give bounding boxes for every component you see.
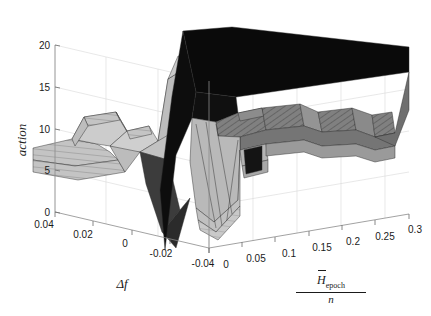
delta-f-tick: 0 — [122, 238, 128, 249]
action-tick-labels: 20 15 10 5 0 — [39, 40, 51, 218]
action-tick: 15 — [39, 82, 51, 93]
delta-f-tick: -0.04 — [192, 258, 215, 269]
delta-f-tick-labels: 0.04 0.02 0 -0.02 -0.04 — [34, 219, 215, 269]
action-axis-title: action — [14, 124, 29, 157]
delta-f-tick: -0.02 — [150, 248, 173, 259]
h-epoch-axis-title: Hepoch n — [296, 273, 366, 306]
h-bar-symbol: H — [317, 273, 326, 287]
h-epoch-denominator: n — [296, 293, 366, 306]
action-tick: 10 — [39, 124, 51, 135]
action-tick: 20 — [39, 40, 51, 51]
h-epoch-tick: 0.25 — [375, 231, 395, 242]
h-epoch-tick: 0.15 — [312, 242, 332, 253]
h-epoch-tick: 0.3 — [408, 224, 422, 235]
delta-f-axis-title: Δf — [115, 276, 130, 291]
surface-mesh — [33, 27, 409, 250]
h-epoch-tick: 0.2 — [346, 236, 360, 247]
action-axis-ticks — [55, 45, 60, 213]
h-epoch-tick: 0 — [223, 259, 229, 270]
h-epoch-numerator: Hepoch — [296, 273, 366, 293]
h-epoch-tick: 0.05 — [246, 253, 266, 264]
action-tick: 5 — [44, 165, 50, 176]
action-tick: 0 — [44, 207, 50, 218]
delta-f-tick: 0.04 — [34, 219, 54, 230]
h-epoch-tick: 0.1 — [282, 248, 296, 259]
overbar-icon — [318, 270, 326, 271]
h-epoch-subscript: epoch — [326, 281, 345, 290]
plot-canvas: 20 15 10 5 0 0.04 0.02 0 -0.02 -0.04 0 0… — [0, 0, 431, 316]
delta-f-tick: 0.02 — [73, 229, 93, 240]
surface-plot-figure: 20 15 10 5 0 0.04 0.02 0 -0.02 -0.04 0 0… — [0, 0, 431, 316]
